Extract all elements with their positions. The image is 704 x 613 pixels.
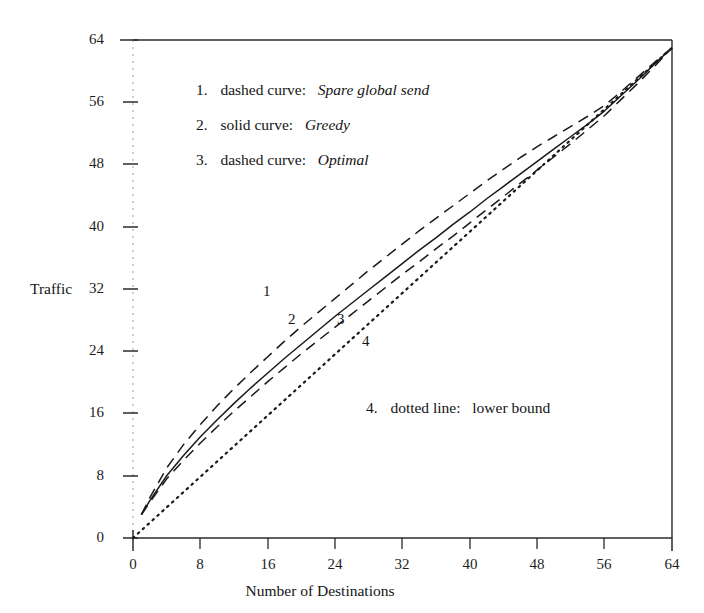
legend-note-4-style: dotted line: — [390, 399, 460, 416]
legend-item-2-number: 2. — [196, 116, 208, 133]
curve-label-4: 4 — [362, 334, 370, 349]
x-tick-label-48: 48 — [517, 557, 557, 572]
y-tick-label-0: 0 — [62, 530, 104, 545]
x-tick-label-24: 24 — [315, 557, 355, 572]
x-tick-label-32: 32 — [382, 557, 422, 572]
legend-item-3: 3. dashed curve: Optimal — [196, 152, 369, 168]
y-tick-label-56: 56 — [62, 94, 104, 109]
y-tick-label-8: 8 — [62, 468, 104, 483]
y-axis-title: Traffic — [30, 281, 72, 297]
legend-item-2-style: solid curve: — [220, 116, 293, 133]
x-tick-label-8: 8 — [180, 557, 220, 572]
legend-item-1-style: dashed curve: — [220, 81, 306, 98]
legend-note-4: 4. dotted line: lower bound — [366, 400, 550, 416]
x-tick-label-16: 16 — [248, 557, 288, 572]
x-tick-label-56: 56 — [584, 557, 624, 572]
y-tick-label-40: 40 — [62, 219, 104, 234]
legend-item-2-name: Greedy — [305, 116, 350, 133]
y-tick-label-64: 64 — [62, 32, 104, 47]
x-tick-label-0: 0 — [113, 557, 153, 572]
legend-item-3-number: 3. — [196, 151, 208, 168]
x-tick-label-64: 64 — [652, 557, 692, 572]
curve-label-1: 1 — [263, 284, 271, 299]
legend-item-3-name: Optimal — [318, 151, 369, 168]
legend-note-4-name: lower bound — [472, 399, 550, 416]
legend-item-1-number: 1. — [196, 81, 208, 98]
legend-item-2: 2. solid curve: Greedy — [196, 117, 350, 133]
figure-container: 64 56 48 40 32 24 16 8 0 Traffic 0 8 16 … — [0, 0, 704, 613]
legend-note-4-number: 4. — [366, 399, 378, 416]
y-tick-label-48: 48 — [62, 156, 104, 171]
curve-label-3: 3 — [337, 312, 345, 327]
legend-item-1-name: Spare global send — [318, 81, 429, 98]
plot-frame — [133, 40, 672, 538]
y-tick-label-16: 16 — [62, 405, 104, 420]
legend-item-1: 1. dashed curve: Spare global send — [196, 82, 429, 98]
x-axis-title: Number of Destinations — [246, 583, 395, 599]
y-tick-label-24: 24 — [62, 343, 104, 358]
curve-label-2: 2 — [288, 312, 296, 327]
legend-item-3-style: dashed curve: — [220, 151, 306, 168]
x-tick-label-40: 40 — [450, 557, 490, 572]
